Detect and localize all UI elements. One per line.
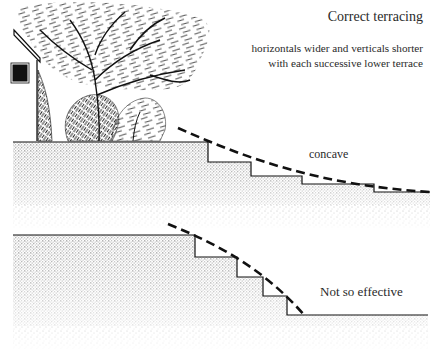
diagram-description: horizontals wider and verticals shorter … [252, 41, 423, 71]
shrub-left [65, 95, 119, 141]
tree-canopy [17, 2, 209, 90]
concave-label: concave [309, 147, 348, 162]
window-icon [13, 65, 27, 81]
description-line-1: horizontals wider and verticals shorter [252, 41, 423, 56]
shrub-right [112, 98, 166, 141]
top-terrace-profile [13, 128, 433, 230]
description-line-2: with each successive lower terrace [252, 56, 423, 71]
not-so-effective-label: Not so effective [320, 284, 403, 300]
hedge [38, 70, 52, 141]
diagram-title: Correct terracing [328, 9, 423, 25]
